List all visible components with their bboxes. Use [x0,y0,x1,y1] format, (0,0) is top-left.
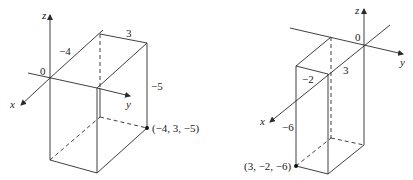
left-z-label: z [41,9,47,21]
right-z-label: z [354,4,360,16]
right-figure: z y x 0 3 −2 −6 (3, −2, −6) [244,4,405,174]
left-point-marker [145,126,149,130]
left-y-label: y [125,98,131,110]
right-box-hidden-edge [296,138,331,166]
right-x-label: x [259,115,265,127]
right-x-dimension: 3 [343,64,349,76]
coordinate-box-diagrams: z x y 0 −4 3 −5 (−4, 3, −5) z y x 0 3 −2 [0,0,413,180]
left-box-edge [97,43,147,88]
right-y-label: y [399,56,405,68]
left-box-hidden-edge [100,117,147,128]
right-box-edge [296,37,331,66]
left-y-axis-back [28,73,97,88]
left-point-label: (−4, 3, −5) [152,122,200,135]
right-box-edge [296,166,328,174]
right-x-axis [270,25,390,122]
left-figure: z x y 0 −4 3 −5 (−4, 3, −5) [9,9,200,173]
left-x-dimension: −4 [59,45,71,57]
left-box-hidden-edge [50,117,100,160]
left-x-axis [21,78,50,105]
right-point-label: (3, −2, −6) [244,160,292,173]
right-origin-label: 0 [355,31,361,43]
left-y-axis [97,88,130,96]
right-box-edge [328,145,364,174]
right-y-axis [290,28,403,54]
right-z-dimension: −6 [282,121,294,133]
right-y-dimension: −2 [302,73,314,85]
left-x-label: x [9,98,15,110]
left-x-axis-negative [50,30,103,78]
right-box-hidden-edge [331,138,364,145]
left-z-dimension: −5 [151,80,163,92]
left-origin-label: 0 [40,65,46,77]
left-box-edge [100,34,147,43]
left-box-edge [50,160,97,173]
right-point-marker [294,164,298,168]
left-y-dimension: 3 [126,27,132,39]
left-box-edge [97,128,147,173]
